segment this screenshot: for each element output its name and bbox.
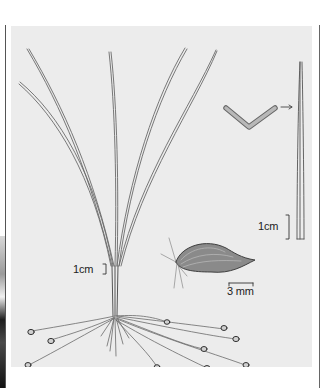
botanical-illustration-plate: 1cm 1cm 3 mm (11, 26, 312, 367)
stem-base (112, 266, 118, 316)
leaf-tip-detail (297, 62, 304, 239)
seed-scale-label: 3 mm (227, 285, 254, 297)
plant-scale-label: 1cm (73, 263, 93, 275)
seed-drawing (161, 238, 255, 288)
scale-bar-plant (103, 264, 106, 274)
leaf-tip-scale-label: 1cm (258, 220, 278, 232)
leaf-cross-section (226, 105, 292, 127)
scale-bar-leaf (286, 215, 289, 239)
page: 1cm 1cm 3 mm (0, 0, 336, 388)
left-border-rule (5, 25, 6, 388)
plant-drawing (11, 26, 312, 367)
leaves (19, 48, 217, 266)
right-border-rule (319, 25, 320, 388)
roots (29, 315, 245, 367)
